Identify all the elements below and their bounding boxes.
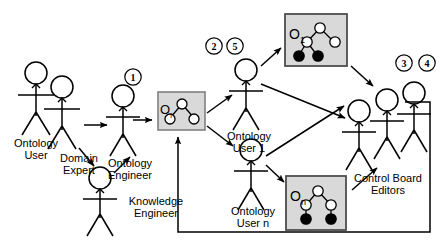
label-ontology-user-1: Ontology User 1 bbox=[214, 130, 284, 154]
ontology-box-o-1-label: O1 bbox=[289, 16, 313, 46]
step-marker-1: 1 bbox=[125, 69, 141, 85]
arrow-o-1-to-editors bbox=[351, 66, 373, 86]
ontology-box-o-i-label: Oi bbox=[160, 92, 182, 122]
step-marker-5: 5 bbox=[227, 38, 243, 54]
svg-text:2: 2 bbox=[212, 41, 217, 52]
arrow-o-i-to-user-1 bbox=[207, 95, 232, 113]
arrow-user-n-to-o-n bbox=[266, 165, 284, 182]
step-marker-2: 2 bbox=[206, 38, 222, 54]
diagram-canvas: 1 2 5 3 4 bbox=[0, 0, 445, 246]
step-marker-4: 4 bbox=[419, 55, 435, 71]
actor-ontology-user-1 bbox=[229, 59, 263, 130]
arrow-user-1-to-o-1 bbox=[261, 48, 281, 66]
actor-ontology-user bbox=[18, 62, 54, 135]
label-knowledge-engineer: Knowledge Engineer bbox=[118, 195, 194, 219]
label-ontology-user-n: Ontology User n bbox=[218, 205, 288, 229]
svg-text:3: 3 bbox=[402, 58, 407, 69]
svg-text:5: 5 bbox=[233, 41, 238, 52]
label-ontology-engineer: Ontology Engineer bbox=[95, 157, 165, 181]
ontology-box-o-n-label: On bbox=[290, 178, 314, 208]
actor-control-board-editors bbox=[342, 82, 431, 170]
step-marker-3: 3 bbox=[396, 55, 412, 71]
svg-text:4: 4 bbox=[425, 58, 430, 69]
label-control-board-editors: Control Board Editors bbox=[340, 172, 436, 196]
svg-text:1: 1 bbox=[131, 72, 136, 83]
